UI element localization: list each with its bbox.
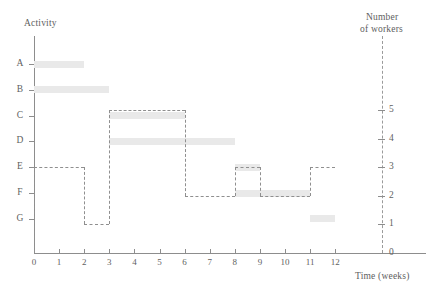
step-top-9-11 <box>260 196 310 197</box>
x-tick-label-3: 3 <box>102 257 116 267</box>
x-tick-5 <box>160 249 161 253</box>
activity-label-E: E <box>14 161 26 171</box>
activity-label-D: D <box>14 135 26 145</box>
x-tick-9 <box>260 249 261 253</box>
workers-axis-line <box>382 36 383 253</box>
activity-bar-A <box>34 61 84 68</box>
step-riser-1 <box>84 167 85 224</box>
step-riser-4 <box>235 167 236 196</box>
step-riser-start <box>34 167 35 253</box>
worker-tick-1 <box>378 224 385 225</box>
step-riser-2 <box>109 110 110 224</box>
step-top-3-6 <box>109 110 184 111</box>
activity-label-B: B <box>14 84 26 94</box>
x-tick-label-0: 0 <box>27 257 41 267</box>
activity-bar-G <box>310 215 335 222</box>
workers-axis-title-line2: of workers <box>360 24 403 34</box>
x-tick-label-11: 11 <box>303 257 317 267</box>
step-top-6-8 <box>185 196 235 197</box>
x-tick-label-8: 8 <box>228 257 242 267</box>
worker-label-1: 1 <box>389 218 401 228</box>
x-tick-label-2: 2 <box>77 257 91 267</box>
activity-bar-B <box>34 86 109 93</box>
worker-tick-3 <box>378 167 385 168</box>
x-tick-11 <box>310 249 311 253</box>
time-axis-title: Time (weeks) <box>355 271 410 281</box>
activity-tick-C <box>29 116 34 117</box>
x-tick-label-12: 12 <box>328 257 342 267</box>
x-tick-3 <box>109 249 110 253</box>
activity-bar-D <box>109 138 235 145</box>
x-tick-label-5: 5 <box>153 257 167 267</box>
x-tick-label-9: 9 <box>253 257 267 267</box>
activity-label-F: F <box>14 187 26 197</box>
x-tick-label-6: 6 <box>178 257 192 267</box>
step-riser-6 <box>310 167 311 196</box>
x-tick-1 <box>59 249 60 253</box>
x-tick-4 <box>134 249 135 253</box>
worker-tick-4 <box>378 139 385 140</box>
x-tick-6 <box>185 249 186 253</box>
worker-tick-5 <box>378 110 385 111</box>
x-tick-8 <box>235 249 236 253</box>
worker-label-2: 2 <box>389 190 401 200</box>
x-tick-7 <box>210 249 211 253</box>
step-riser-5 <box>260 167 261 196</box>
step-top-0-2 <box>34 167 84 168</box>
x-tick-label-1: 1 <box>52 257 66 267</box>
gantt-chart-with-resource-histogram: Activity Number of workers Time (weeks) … <box>0 0 439 295</box>
x-tick-2 <box>84 249 85 253</box>
activity-label-G: G <box>14 213 26 223</box>
worker-label-4: 4 <box>389 133 401 143</box>
step-top-8-9 <box>235 167 260 168</box>
activity-tick-D <box>29 141 34 142</box>
worker-label-0: 0 <box>389 247 401 257</box>
step-top-11-12 <box>310 167 335 168</box>
worker-label-5: 5 <box>389 104 401 114</box>
worker-label-3: 3 <box>389 161 401 171</box>
x-tick-label-10: 10 <box>278 257 292 267</box>
x-tick-10 <box>285 249 286 253</box>
workers-axis-title-line1: Number <box>366 12 398 22</box>
activity-label-A: A <box>14 58 26 68</box>
step-riser-3 <box>185 110 186 196</box>
activity-label-C: C <box>14 110 26 120</box>
step-top-2-3 <box>84 224 109 225</box>
activity-bar-C <box>109 112 184 119</box>
x-axis-line <box>34 253 426 254</box>
x-tick-label-7: 7 <box>203 257 217 267</box>
x-tick-12 <box>335 249 336 253</box>
x-tick-label-4: 4 <box>127 257 141 267</box>
worker-tick-2 <box>378 196 385 197</box>
activity-axis-title: Activity <box>24 18 57 28</box>
